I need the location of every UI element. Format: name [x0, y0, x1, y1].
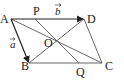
- label-b-point: B: [21, 59, 29, 73]
- label-q-point: Q: [76, 65, 85, 79]
- parallelogram-figure: A P b D a O B Q C: [0, 0, 124, 84]
- label-a-point: A: [0, 12, 9, 26]
- label-d-point: D: [87, 12, 96, 26]
- label-vector-b: b: [55, 5, 61, 17]
- label-p-point: P: [33, 4, 40, 18]
- label-vector-a: a: [10, 38, 16, 50]
- label-o-point: O: [44, 36, 53, 50]
- segment-pq: [35, 19, 79, 63]
- label-c-point: C: [105, 59, 113, 73]
- diagram-canvas: A P b D a O B Q C: [0, 0, 124, 84]
